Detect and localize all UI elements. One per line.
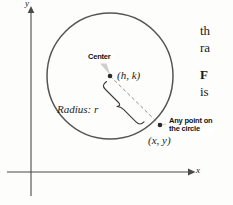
y-axis-label: y: [25, 0, 29, 8]
x-axis: [7, 169, 196, 176]
body-text-line-3: F: [200, 67, 233, 84]
body-text-column: th ra F is: [200, 23, 233, 101]
any-point-callout-line-2: the circle: [169, 125, 212, 133]
circle-definition-figure: y x Center (h, k) Radius: r (x, y) Any p…: [0, 0, 233, 205]
body-text-line-1: th: [200, 23, 233, 40]
radius-dashed-line: [110, 76, 160, 125]
radius-label: Radius: r: [57, 103, 98, 115]
x-axis-label: x: [196, 165, 200, 175]
body-text-line-4: is: [200, 84, 233, 101]
body-text-gap: [200, 56, 233, 67]
center-callout-pointer: [100, 64, 111, 76]
center-callout-label: Center: [85, 52, 114, 62]
circle-point-label: (x, y): [148, 134, 171, 146]
body-text-line-2: ra: [200, 40, 233, 57]
any-point-callout-label: Any point on the circle: [166, 116, 215, 135]
center-point-label: (h, k): [117, 69, 140, 81]
circle-point-dot: [158, 123, 163, 128]
center-point-dot: [108, 74, 113, 79]
y-axis: [28, 6, 35, 196]
